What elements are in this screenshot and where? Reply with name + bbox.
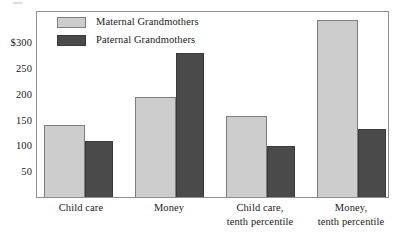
x-category-money-tenth-line2: tenth percentile	[296, 215, 404, 229]
legend-item-paternal: Paternal Grandmothers	[57, 32, 237, 48]
bar-chart-figure: $300 250 200 150 100 50	[0, 0, 404, 239]
x-category-money-tenth: Money, tenth percentile	[296, 201, 404, 228]
bar-money-tenth-maternal	[317, 20, 358, 197]
y-tick-label-300: $300	[2, 38, 32, 49]
y-tick-label-200: 200	[2, 90, 32, 101]
bar-child-care-maternal	[44, 125, 85, 197]
legend-label-maternal: Maternal Grandmothers	[96, 16, 199, 28]
bar-money-tenth-paternal	[358, 129, 386, 197]
y-tick-label-250: 250	[2, 64, 32, 75]
y-tick-label-50: 50	[2, 167, 32, 178]
legend-swatch-maternal-icon	[57, 17, 86, 28]
legend-item-maternal: Maternal Grandmothers	[57, 14, 237, 30]
y-tick-label-100: 100	[2, 141, 32, 152]
bar-child-care-tenth-maternal	[226, 116, 267, 197]
legend-swatch-paternal-icon	[57, 35, 86, 46]
y-tick-label-150: 150	[2, 116, 32, 127]
x-axis: Child care Money Child care, tenth perce…	[36, 201, 389, 239]
legend-label-paternal: Paternal Grandmothers	[96, 34, 195, 46]
legend: Maternal Grandmothers Paternal Grandmoth…	[57, 14, 237, 50]
bar-child-care-tenth-paternal	[267, 146, 295, 197]
bar-money-paternal	[176, 53, 204, 198]
bar-money-maternal	[135, 97, 176, 197]
x-category-money-tenth-line1: Money,	[296, 201, 404, 215]
bar-child-care-paternal	[85, 141, 113, 197]
